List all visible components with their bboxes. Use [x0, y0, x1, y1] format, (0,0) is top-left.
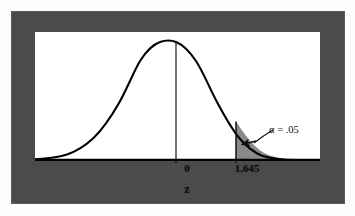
distribution-plot: [11, 11, 345, 204]
normal-curve: [35, 40, 320, 160]
figure-root: 0 1.645 z α = .05: [0, 0, 355, 216]
tick-label-zero: 0: [176, 163, 198, 174]
figure-frame: 0 1.645 z α = .05: [11, 11, 345, 204]
tick-label-critical-value: 1.645: [222, 163, 272, 174]
alpha-annotation-label: α = .05: [269, 125, 299, 136]
axis-title-z: z: [161, 183, 213, 195]
